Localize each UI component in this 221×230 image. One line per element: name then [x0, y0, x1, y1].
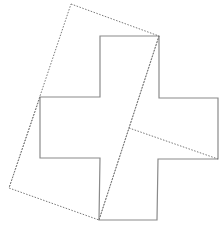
cut-line-2: [129, 128, 218, 159]
dissection-diagram: [0, 0, 221, 230]
cut-line-3: [9, 97, 40, 188]
